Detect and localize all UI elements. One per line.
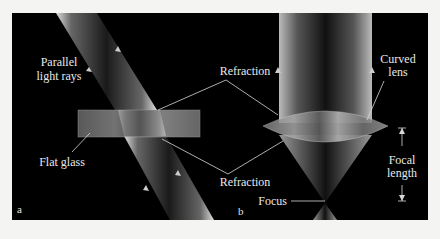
label-focal-line2: length [387, 166, 417, 180]
label-flat-glass: Flat glass [39, 155, 85, 169]
label-refraction-bottom: Refraction [220, 175, 271, 189]
label-parallel-line1: Parallel [41, 55, 78, 69]
label-focus: Focus [258, 194, 287, 208]
label-refraction-top: Refraction [220, 64, 271, 78]
label-focal-line1: Focal [389, 153, 416, 167]
panel-letter-b: b [238, 205, 244, 217]
flat-glass [78, 110, 200, 137]
panel-letter-a: a [17, 203, 22, 215]
refraction-diagram: Parallel light rays Refraction Flat glas… [0, 0, 440, 239]
label-curved-line1: Curved [380, 52, 415, 66]
label-curved-line2: lens [388, 65, 408, 79]
label-parallel-line2: light rays [37, 69, 82, 83]
